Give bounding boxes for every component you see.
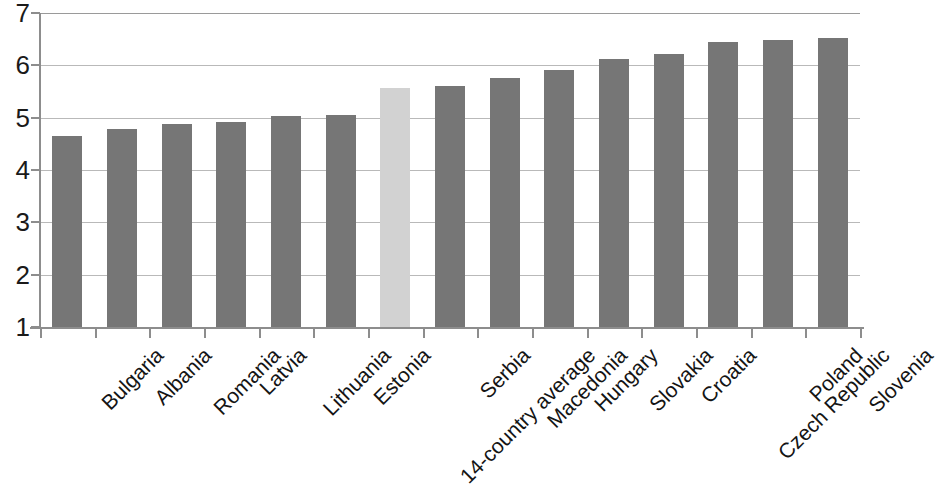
- x-axis-label-bulgaria: Bulgaria: [98, 344, 167, 413]
- y-tickmark-7: [31, 12, 40, 14]
- y-tickmark-4: [31, 169, 40, 171]
- bar-bulgaria: [52, 136, 82, 327]
- x-tickmark-14: [805, 329, 807, 338]
- x-tickmark-5: [313, 329, 315, 338]
- x-tickmark-6: [368, 329, 370, 338]
- bar-estonia: [326, 115, 356, 327]
- x-tickmark-4: [259, 329, 261, 338]
- bar-macedonia: [490, 78, 520, 327]
- bar-poland: [763, 40, 793, 327]
- y-tickmark-2: [31, 274, 40, 276]
- y-tickmark-3: [31, 221, 40, 223]
- bar-14-country-average: [380, 88, 410, 327]
- x-tickmark-11: [641, 329, 643, 338]
- y-tick-label-6: 6: [0, 52, 30, 78]
- bar-lithuania: [271, 116, 301, 327]
- x-tickmark-end: [860, 329, 862, 338]
- y-tickmark-5: [31, 117, 40, 119]
- y-tickmark-6: [31, 64, 40, 66]
- bar-albania: [107, 129, 137, 327]
- y-tick-label-1: 1: [0, 314, 30, 340]
- x-tickmark-0: [40, 329, 42, 338]
- y-tick-label-3: 3: [0, 209, 30, 235]
- x-tickmark-10: [587, 329, 589, 338]
- bar-croatia: [654, 54, 684, 327]
- x-tickmark-7: [423, 329, 425, 338]
- bar-slovenia: [818, 38, 848, 327]
- y-tickmark-1: [31, 326, 40, 328]
- x-tickmark-9: [532, 329, 534, 338]
- y-tick-label-5: 5: [0, 105, 30, 131]
- x-axis-labels: BulgariaAlbaniaRomaniaLatviaLithuaniaEst…: [0, 340, 868, 478]
- bar-hungary: [544, 70, 574, 327]
- bar-czech-republic: [708, 42, 738, 327]
- bar-romania: [162, 124, 192, 327]
- y-axis-labels: 1234567: [0, 0, 30, 340]
- x-tickmark-8: [477, 329, 479, 338]
- x-axis-label-serbia: Serbia: [476, 344, 534, 402]
- bars-layer: [40, 0, 860, 328]
- bar-slovakia: [599, 59, 629, 327]
- x-tickmark-12: [696, 329, 698, 338]
- x-tickmark-3: [204, 329, 206, 338]
- x-tickmark-13: [751, 329, 753, 338]
- x-tickmark-1: [95, 329, 97, 338]
- y-tick-label-4: 4: [0, 157, 30, 183]
- y-tick-label-7: 7: [0, 0, 30, 26]
- x-tickmark-2: [149, 329, 151, 338]
- bar-latvia: [216, 122, 246, 327]
- y-tick-label-2: 2: [0, 262, 30, 288]
- bar-serbia: [435, 86, 465, 327]
